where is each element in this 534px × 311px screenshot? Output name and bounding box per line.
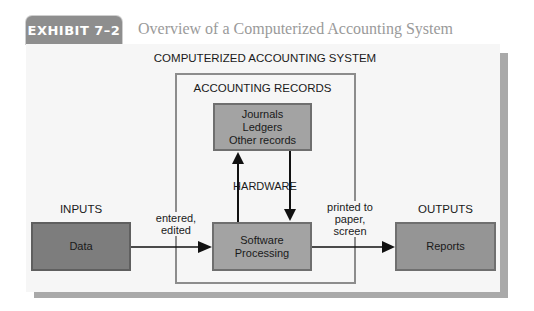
output-edge-line2: paper, <box>318 213 382 225</box>
flow-arrows <box>0 0 534 311</box>
input-edge-label: entered, edited <box>148 212 204 236</box>
input-edge-line2: edited <box>148 224 204 236</box>
arrow-up-icon <box>232 152 244 164</box>
arrow-right-icon <box>198 241 212 253</box>
output-edge-label: printed to paper, screen <box>318 201 382 237</box>
output-edge-line1: printed to <box>318 201 382 213</box>
output-edge-line3: screen <box>318 225 382 237</box>
input-edge-line1: entered, <box>148 212 204 224</box>
arrow-right-icon <box>382 241 395 253</box>
arrow-down-icon <box>284 209 296 221</box>
